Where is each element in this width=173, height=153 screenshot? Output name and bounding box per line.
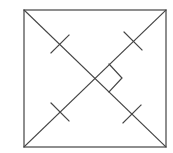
right-angle-marker [109,64,122,92]
square-diagonals-diagram [0,0,173,153]
